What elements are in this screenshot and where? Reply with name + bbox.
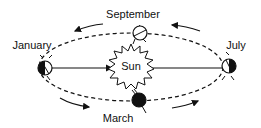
earth-march-icon xyxy=(132,89,146,113)
sun-label: Sun xyxy=(121,60,141,72)
label-january: January xyxy=(12,39,52,51)
label-september: September xyxy=(106,8,160,20)
earth-september-icon xyxy=(133,25,147,44)
label-march: March xyxy=(103,112,134,124)
label-july: July xyxy=(226,39,246,51)
earth-july-icon xyxy=(222,52,236,80)
earth-orbit-diagram: Sun January September July March xyxy=(0,0,261,128)
sun-icon: Sun xyxy=(108,44,154,89)
orbit-arrow-bottom-right xyxy=(172,101,198,108)
earth-january-icon xyxy=(38,55,52,80)
orbit-arrow-top-left xyxy=(75,24,103,31)
orbit-arrow-top-right xyxy=(172,25,200,31)
orbit-arrow-bottom-left xyxy=(60,98,89,107)
